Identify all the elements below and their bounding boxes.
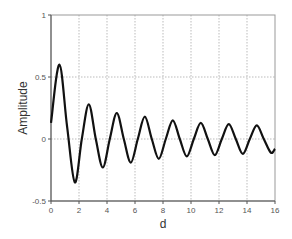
y-tick-label: 0 bbox=[42, 135, 47, 144]
y-tick-label: -0.5 bbox=[32, 197, 46, 206]
x-tick-label: 4 bbox=[105, 206, 110, 215]
amplitude-chart: 0246810121416-0.500.51 d Amplitude bbox=[0, 0, 292, 239]
grid-lines bbox=[51, 15, 275, 201]
x-tick-label: 10 bbox=[187, 206, 196, 215]
x-tick-label: 12 bbox=[215, 206, 224, 215]
x-tick-label: 14 bbox=[243, 206, 252, 215]
x-tick-label: 16 bbox=[271, 206, 280, 215]
x-tick-label: 2 bbox=[77, 206, 82, 215]
y-tick-label: 0.5 bbox=[35, 73, 47, 82]
x-axis-label: d bbox=[160, 217, 167, 231]
axis-ticks: 0246810121416-0.500.51 bbox=[32, 11, 280, 215]
y-tick-label: 1 bbox=[42, 11, 47, 20]
x-tick-label: 0 bbox=[49, 206, 54, 215]
y-axis-label: Amplitude bbox=[16, 81, 30, 135]
x-tick-label: 6 bbox=[133, 206, 138, 215]
x-tick-label: 8 bbox=[161, 206, 166, 215]
